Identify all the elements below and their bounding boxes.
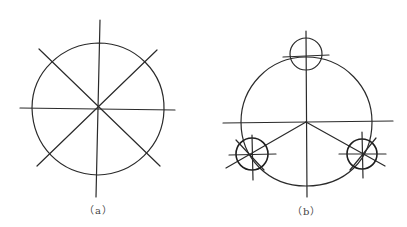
panel-a-drawing xyxy=(20,20,175,197)
panel-a-caption: （a） xyxy=(84,202,113,217)
panel-b-caption: （b） xyxy=(292,203,321,218)
panel-b-drawing xyxy=(223,31,393,197)
diagram-canvas xyxy=(0,0,407,227)
